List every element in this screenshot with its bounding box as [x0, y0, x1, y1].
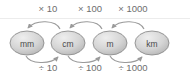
multiply-label-100: × 100: [78, 3, 102, 14]
node-km-label: km: [146, 39, 157, 49]
multiply-label-group: × 10 × 100 × 1000: [39, 3, 148, 14]
node-m-label: m: [106, 39, 113, 49]
arrow-m-to-cm-icon: [70, 22, 102, 29]
node-km: km: [135, 31, 169, 55]
divide-label-10: ÷ 10: [39, 62, 57, 73]
divide-label-group: ÷ 10 ÷ 100 ÷ 1000: [39, 62, 148, 73]
top-arrow-group: [28, 22, 144, 29]
diagram-canvas: × 10 × 100 × 1000 ÷ 10 ÷ 100 ÷ 1000 mm c…: [0, 0, 190, 74]
node-mm-label: mm: [20, 39, 34, 49]
node-m: m: [93, 31, 127, 55]
node-cm: cm: [51, 31, 85, 55]
arrow-km-to-m-icon: [112, 22, 144, 29]
node-cm-label: cm: [62, 39, 73, 49]
node-mm: mm: [10, 31, 44, 55]
multiply-label-1000: × 1000: [118, 3, 147, 14]
multiply-label-10: × 10: [39, 3, 58, 14]
arrow-cm-to-mm-icon: [28, 22, 60, 29]
divide-label-100: ÷ 100: [78, 62, 102, 73]
divide-label-1000: ÷ 1000: [119, 62, 148, 73]
unit-conversion-diagram: × 10 × 100 × 1000 ÷ 10 ÷ 100 ÷ 1000 mm c…: [0, 0, 190, 74]
